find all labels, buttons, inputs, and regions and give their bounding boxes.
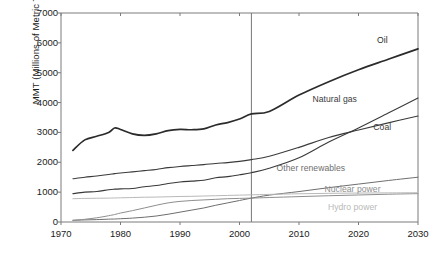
series-label-coal: Coal	[373, 122, 391, 132]
chart-root: MMT (Millions of Metric Tons) 0100020003…	[0, 0, 442, 254]
series-label-oil: Oil	[377, 35, 388, 45]
series-label-other-renewables: Other renewables	[277, 163, 346, 173]
series-line-coal	[73, 116, 418, 179]
series-line-natural-gas	[73, 98, 418, 194]
series-label-natural-gas: Natural gas	[312, 94, 357, 104]
series-line-oil	[73, 49, 418, 151]
series-label-nuclear-power: Nuclear power	[325, 184, 381, 194]
series-label-hydro-power: Hydro power	[328, 202, 377, 212]
